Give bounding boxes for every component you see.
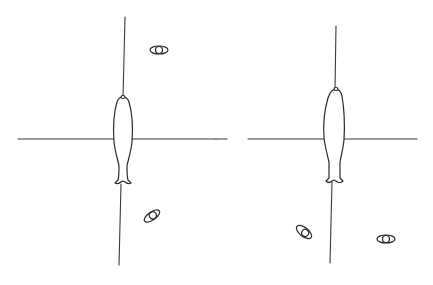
- left-vertical-axis-bottom: [119, 184, 121, 265]
- right-vertical-axis-top: [335, 26, 336, 90]
- pupil-icon: [383, 236, 390, 243]
- pupil-icon: [148, 211, 158, 221]
- left-vertical-axis-top: [123, 17, 125, 98]
- right-fish-icon: [324, 89, 345, 183]
- right-eye-symbol-right: [377, 235, 395, 243]
- right-vertical-axis-bottom: [330, 182, 332, 263]
- pupil-icon: [156, 47, 163, 54]
- eye-icon: [294, 223, 314, 241]
- diagram-svg: [0, 0, 433, 285]
- figure-canvas: [0, 0, 433, 285]
- left-fish-icon: [114, 97, 133, 184]
- eye-icon: [150, 46, 168, 54]
- right-eye-symbol-left: [294, 223, 314, 241]
- left-eye-symbol-bottom: [142, 208, 161, 225]
- left-eye-symbol-top: [150, 46, 168, 54]
- eye-icon: [142, 208, 161, 225]
- left-panel: [18, 17, 216, 265]
- right-panel: [216, 26, 417, 263]
- right-fish-snout: [334, 88, 338, 91]
- eye-icon: [377, 235, 395, 243]
- left-fish-snout: [121, 96, 125, 99]
